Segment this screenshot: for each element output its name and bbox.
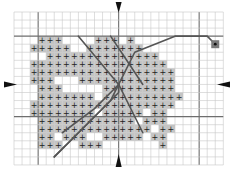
stitch-symbol: +	[168, 125, 175, 134]
stitch-symbol: +	[176, 93, 183, 102]
center-arrow-top-icon	[116, 2, 122, 13]
stitch-symbol: +	[63, 133, 70, 142]
marker-dot-icon	[214, 43, 217, 46]
stitch-symbol: +	[31, 109, 38, 118]
stitch-symbol: +	[143, 125, 150, 134]
stitch-symbol: +	[87, 141, 94, 150]
stitch-symbol: +	[47, 141, 54, 150]
stitch-symbol: +	[39, 44, 46, 53]
stitch-symbol: +	[119, 133, 126, 142]
stitch-symbol: +	[143, 101, 150, 110]
stem-marker	[211, 40, 219, 48]
stitch-symbol: +	[39, 141, 46, 150]
stitch-symbol: +	[71, 68, 78, 77]
stitch-symbols: ++++++++++++++++++++++++++++++++++++++++…	[31, 36, 183, 150]
stitch-symbol: +	[111, 133, 118, 142]
stitch-symbol: +	[31, 44, 38, 53]
stitch-symbol: +	[95, 76, 102, 85]
stitch-symbol: +	[95, 125, 102, 134]
stitch-symbol: +	[63, 68, 70, 77]
stitch-symbol: +	[79, 76, 86, 85]
stitch-symbol: +	[152, 117, 159, 126]
center-arrow-bottom-icon	[116, 154, 122, 167]
stitch-symbol: +	[135, 109, 142, 118]
stitch-symbol: +	[152, 133, 159, 142]
center-arrow-left-icon	[4, 81, 17, 87]
stitch-symbol: +	[87, 76, 94, 85]
stitch-symbol: +	[55, 68, 62, 77]
stitch-symbol: +	[31, 76, 38, 85]
stitch-symbol: +	[127, 133, 134, 142]
stitch-symbol: +	[55, 125, 62, 134]
stitch-symbol: +	[87, 125, 94, 134]
stitch-symbol: +	[160, 141, 167, 150]
stitch-symbol: +	[55, 141, 62, 150]
stitch-symbol: +	[79, 141, 86, 150]
stitch-symbol: +	[103, 133, 110, 142]
stitch-symbol: +	[168, 101, 175, 110]
cross-stitch-chart: ++++++++++++++++++++++++++++++++++++++++…	[0, 0, 234, 169]
stitch-symbol: +	[95, 141, 102, 150]
stitch-symbol: +	[135, 133, 142, 142]
